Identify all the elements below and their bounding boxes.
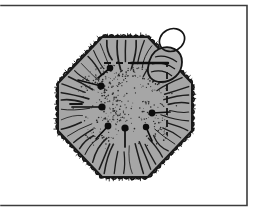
pin-head [97,82,104,89]
pin-head [143,124,149,130]
illustration-canvas [0,0,261,215]
figure-container [0,0,261,215]
pin-head [121,124,128,131]
pin-head [107,65,114,72]
pin-head [98,103,105,110]
pin-head [105,123,112,130]
pin-head [149,110,156,117]
